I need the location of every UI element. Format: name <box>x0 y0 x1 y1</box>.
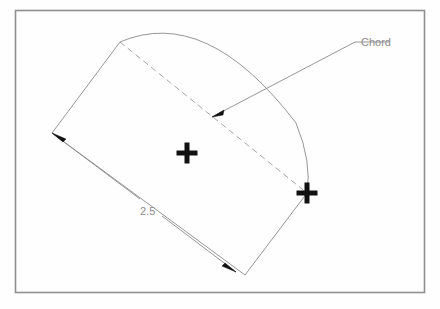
chord-label: Chord <box>361 36 391 48</box>
drawing-canvas: Chord 2.5 <box>0 0 440 309</box>
endpoint-cross-vertical <box>305 183 310 204</box>
technical-drawing-svg: Chord 2.5 <box>0 0 440 309</box>
dimension-value-label: 2.5 <box>140 205 155 217</box>
center-cross-vertical <box>185 143 190 164</box>
